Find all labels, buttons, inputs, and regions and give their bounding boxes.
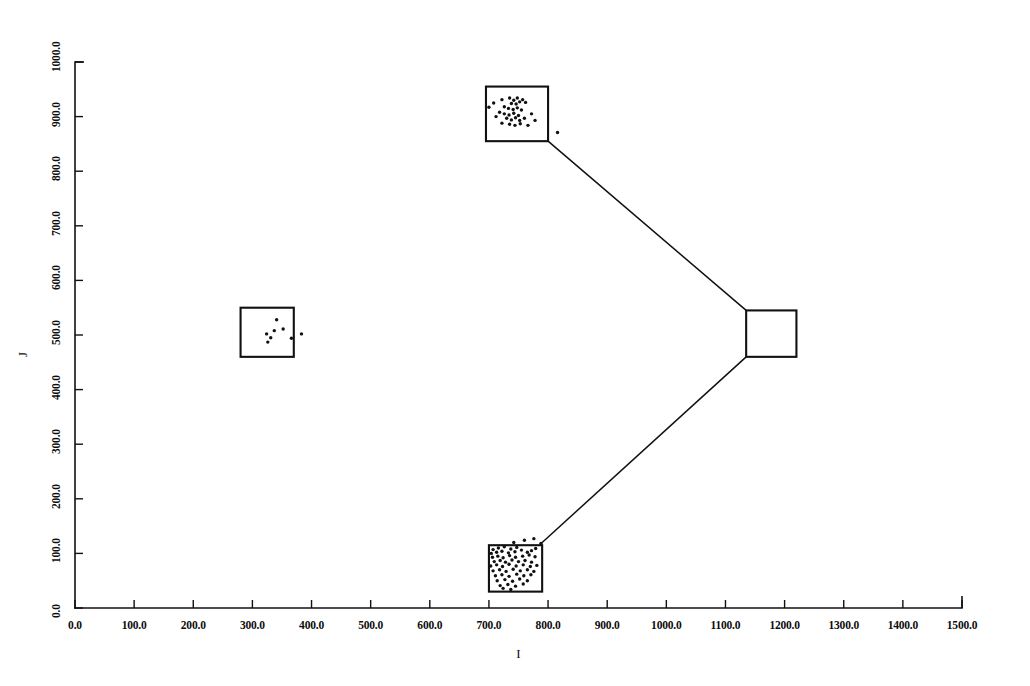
data-point — [532, 570, 535, 573]
y-axis-tick-label: 900.0 — [50, 102, 62, 127]
data-point — [512, 541, 515, 544]
data-point — [496, 579, 499, 582]
data-point — [510, 558, 513, 561]
data-point — [508, 96, 511, 99]
data-point — [491, 548, 494, 551]
left-cluster-points — [265, 318, 303, 344]
data-point — [501, 556, 504, 559]
data-point — [529, 573, 532, 576]
data-point — [524, 101, 527, 104]
data-point — [526, 124, 529, 127]
data-point — [500, 550, 503, 553]
data-point — [501, 565, 504, 568]
data-point — [520, 108, 523, 111]
y-axis-tick-label: 1000.0 — [50, 42, 62, 72]
data-point — [526, 579, 529, 582]
data-point — [506, 583, 509, 586]
y-axis-tick-label: 100.0 — [50, 539, 62, 564]
data-point — [501, 587, 504, 590]
data-point — [518, 119, 521, 122]
data-point — [510, 118, 513, 121]
data-point — [523, 539, 526, 542]
data-point — [498, 584, 501, 587]
x-axis-tick-label: 1200.0 — [769, 619, 799, 631]
data-point — [530, 560, 533, 563]
data-point — [530, 549, 533, 552]
scatter-plot-figure: 0.0100.0200.0300.0400.0500.0600.0700.080… — [0, 0, 1030, 686]
data-point — [530, 112, 533, 115]
data-point — [511, 568, 514, 571]
data-point — [535, 564, 538, 567]
y-axis-tick-label: 200.0 — [50, 484, 62, 509]
x-axis-tick-label: 1100.0 — [711, 619, 741, 631]
data-point — [533, 119, 536, 122]
data-point — [493, 560, 496, 563]
y-axis-tick-label: 400.0 — [50, 375, 62, 400]
data-point — [503, 578, 506, 581]
plot-canvas — [0, 0, 1030, 686]
y-axis-tick-label: 800.0 — [50, 156, 62, 181]
data-point — [265, 332, 268, 335]
data-point — [487, 106, 490, 109]
x-axis-tick-label: 1300.0 — [829, 619, 859, 631]
left-cluster-box — [241, 308, 294, 357]
x-axis-tick-label: 400.0 — [299, 619, 324, 631]
data-point — [281, 327, 284, 330]
data-point — [516, 106, 519, 109]
data-point — [521, 98, 524, 101]
right-empty-box — [746, 310, 796, 356]
data-point — [290, 337, 293, 340]
data-point — [522, 563, 525, 566]
data-point — [539, 542, 542, 545]
lower-to-right-connector — [542, 357, 746, 543]
data-point — [275, 318, 278, 321]
data-point — [508, 123, 511, 126]
data-point — [516, 96, 519, 99]
data-point — [521, 554, 524, 557]
data-point — [533, 555, 536, 558]
data-point — [523, 117, 526, 120]
y-axis-tick-label: 300.0 — [50, 429, 62, 454]
data-point — [519, 122, 522, 125]
data-point — [498, 559, 501, 562]
y-axis-title: J — [15, 352, 31, 357]
data-point — [526, 568, 529, 571]
data-point — [266, 340, 269, 343]
data-point — [503, 112, 506, 115]
data-point — [514, 564, 517, 567]
data-point — [503, 545, 506, 548]
x-axis-tick-label: 600.0 — [417, 619, 442, 631]
x-axis-tick-label: 800.0 — [536, 619, 561, 631]
x-axis-tick-label: 900.0 — [595, 619, 620, 631]
connectors-layer — [542, 141, 746, 542]
data-point — [503, 105, 506, 108]
data-point — [496, 554, 499, 557]
data-point — [495, 563, 498, 566]
data-point — [497, 546, 500, 549]
x-axis-tick-label: 700.0 — [476, 619, 501, 631]
axes-layer — [75, 62, 962, 608]
data-point — [507, 107, 510, 110]
data-point — [273, 329, 276, 332]
data-point — [489, 564, 492, 567]
data-point — [500, 573, 503, 576]
x-axis-tick-label: 100.0 — [122, 619, 147, 631]
data-point — [532, 537, 535, 540]
x-axis-title: I — [516, 646, 520, 662]
data-point — [515, 546, 518, 549]
data-point — [518, 100, 521, 103]
data-point — [527, 553, 530, 556]
data-point — [495, 551, 498, 554]
data-point — [500, 98, 503, 101]
data-point — [509, 547, 512, 550]
data-point — [518, 577, 521, 580]
data-point — [498, 568, 501, 571]
data-point — [491, 569, 494, 572]
y-axis-tick-label: 700.0 — [50, 211, 62, 236]
data-point — [504, 560, 507, 563]
data-point — [511, 108, 514, 111]
data-point — [500, 121, 503, 124]
data-point — [498, 111, 501, 114]
data-point — [514, 584, 517, 587]
data-point — [512, 112, 515, 115]
